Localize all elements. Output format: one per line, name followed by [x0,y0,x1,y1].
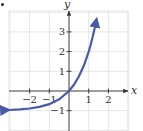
exponential-graph: −2−112−1123 x y [0,0,143,131]
x-axis-label: x [131,84,138,97]
y-tick-label: 3 [59,26,65,37]
y-axis-label: y [63,0,71,11]
x-tick-label: −2 [22,94,37,105]
y-tick-label: −1 [50,105,65,116]
x-tick-label: 1 [86,94,92,105]
y-tick-label: 2 [59,46,65,57]
x-tick-label: 2 [105,94,111,105]
y-tick-label: 1 [59,66,65,77]
